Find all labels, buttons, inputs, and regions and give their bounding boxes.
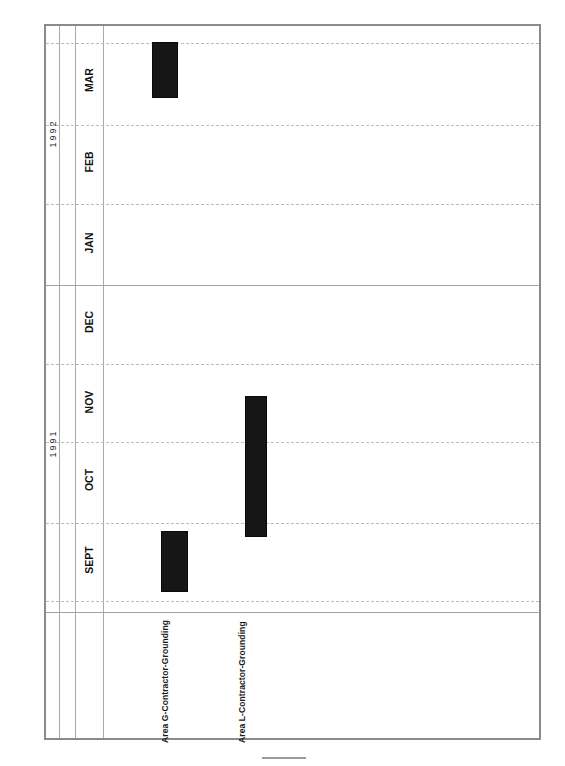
gantt-chart-page: Secret Master Schedule vs Bid Package 19… bbox=[0, 0, 565, 766]
plot-bottom-divider bbox=[46, 612, 539, 613]
axis-month-mar: MAR bbox=[75, 74, 103, 86]
task-label-area-g: Area G-Contractor-Grounding bbox=[160, 620, 170, 743]
axis-month-feb: FEB bbox=[75, 156, 103, 168]
month-column-rule bbox=[75, 26, 76, 738]
chart-frame: 1992 1991 MAR FEB JAN DEC NOV OCT SEPT bbox=[44, 24, 541, 740]
axis-year-1991: 1991 bbox=[46, 446, 59, 456]
task-label-area-l: Area L-Contractor-Grounding bbox=[237, 621, 247, 743]
gridline-nov-oct bbox=[46, 442, 539, 443]
axis-month-sept: SEPT bbox=[75, 554, 103, 566]
plot-left-rule bbox=[103, 26, 104, 738]
year-divider-1992-1991 bbox=[46, 285, 539, 286]
gridline-mar-top bbox=[46, 43, 539, 44]
gantt-bar-area-g-mar-1992[interactable] bbox=[152, 42, 178, 98]
gantt-bar-area-g-sept-1991[interactable] bbox=[161, 531, 188, 592]
gridline-sept-bottom bbox=[46, 601, 539, 602]
axis-year-1992: 1992 bbox=[46, 136, 59, 146]
axis-month-nov: NOV bbox=[75, 396, 103, 408]
gridline-dec-nov bbox=[46, 364, 539, 365]
gridline-oct-sept bbox=[46, 523, 539, 524]
axis-month-jan: JAN bbox=[75, 237, 103, 249]
axis-month-oct: OCT bbox=[75, 474, 103, 486]
year-column-rule bbox=[59, 26, 60, 738]
gantt-bar-area-l-oct-nov-1991[interactable] bbox=[245, 396, 267, 537]
page-bottom-tick bbox=[262, 757, 306, 759]
gridline-mar-feb bbox=[46, 125, 539, 126]
gridline-feb-jan bbox=[46, 204, 539, 205]
axis-month-dec: DEC bbox=[75, 316, 103, 328]
